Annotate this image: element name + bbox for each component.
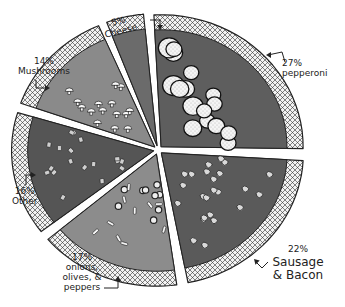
sausage-topping [256,191,263,197]
olive-topping [142,187,148,193]
olive-topping [152,192,158,198]
mushroom-stem [90,112,93,115]
label-pepperoni-name: pepperoni [282,68,327,78]
sausage-topping [181,171,188,177]
label-mushrooms: 14% Mushrooms [18,56,70,76]
sausage-topping [201,215,208,221]
sausage-topping [203,195,210,201]
other-topping [100,178,104,183]
mushroom-stem [97,105,100,108]
sausage-topping [216,170,223,176]
mushroom-stem [80,108,83,111]
mushroom-stem [120,87,123,90]
olive-topping [121,186,127,192]
olive-topping [150,217,156,223]
mushroom-stem [101,111,104,114]
label-other-pct: 16% [12,186,38,196]
label-other-name: Other [12,196,38,206]
arrow-sausage-bacon-head [252,257,260,265]
label-onions-olives-peppers-name: onions, olives, & peppers [58,262,106,292]
arrow-sausage-bacon-line [256,262,268,268]
sausage-topping [174,200,181,206]
mushroom-stem [76,102,79,105]
mushroom-stem [68,91,71,94]
label-pepperoni-pct: 27% [282,58,327,68]
sausage-topping [242,186,249,192]
mushroom-stem [125,115,128,118]
arrow-sausage-bacon [252,257,268,268]
pepper-topping [155,203,162,206]
label-onions-olives-peppers: 17% onions, olives, & peppers [58,252,106,292]
mushroom-stem [111,104,114,107]
sausage-topping [237,204,244,210]
label-mushrooms-name: Mushrooms [18,66,70,76]
pepperoni-topping [197,104,212,118]
other-topping [78,137,83,143]
sausage-topping [266,171,273,177]
sausage-topping [205,162,212,168]
sausage-topping [218,156,225,162]
sausage-topping [188,171,195,177]
pepper-topping [127,183,130,190]
sausage-topping [180,182,187,188]
label-other: 16% Other [12,186,38,206]
label-sausage-bacon: 22% Sausage & Bacon [270,243,326,282]
pepperoni-topping [166,42,182,57]
pepperoni-topping [184,120,202,137]
pepperoni-topping [184,66,199,80]
other-topping [47,142,52,148]
label-mushrooms-pct: 14% [18,56,70,66]
mushroom-stem [96,124,99,127]
label-pepperoni: 27% pepperoni [282,58,327,78]
mushroom-stem [128,111,131,114]
sausage-topping [202,242,209,248]
label-sausage-bacon-name: Sausage & Bacon [270,256,326,282]
other-topping [57,146,61,151]
olive-topping [115,203,121,209]
other-topping [91,161,96,166]
label-onions-olives-peppers-pct: 17% [58,252,106,262]
pepper-topping [133,207,136,214]
sausage-topping [211,218,218,224]
sausage-topping [204,169,211,175]
slices-group [12,14,304,286]
sausage-topping [210,176,217,182]
mushroom-topping [124,126,132,129]
olive-topping [154,182,160,188]
mushroom-stem [115,115,118,118]
arrow-pepperoni-head [266,52,271,58]
sausage-topping [210,187,217,193]
pepperoni-topping [221,126,237,141]
slice-sauce [161,153,287,268]
mushroom-stem [114,85,117,88]
mushroom-stem [113,129,116,132]
pepperoni-topping [170,80,188,97]
mushroom-stem [127,129,130,132]
other-topping [115,157,120,161]
sausage-topping [190,238,197,244]
olive-topping [155,207,161,213]
slice-pepperoni [154,15,303,151]
